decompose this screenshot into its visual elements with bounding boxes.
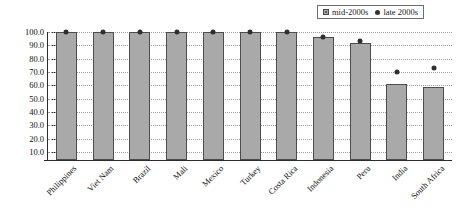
legend-label-late-2000s: late 2000s: [383, 8, 418, 17]
x-axis-label-mali: Mali: [171, 164, 188, 181]
x-axis-label-indonesia: Indonesia: [306, 164, 335, 193]
bar-turkey: [240, 32, 261, 160]
x-axis-label-viet-nam: Viet Nam: [86, 164, 115, 193]
chart-legend: mid-2000s late 2000s: [317, 5, 424, 19]
y-axis-tick-label: 60.0: [10, 81, 44, 90]
bar-swatch-icon: [323, 9, 329, 15]
legend-label-mid-2000s: mid-2000s: [332, 8, 368, 17]
bar-indonesia: [313, 37, 334, 160]
y-axis-tick-label: 40.0: [10, 108, 44, 117]
y-axis-tick-label: 20.0: [10, 135, 44, 144]
bar-philippines: [56, 32, 77, 160]
x-axis-label-mexico: Mexico: [201, 164, 225, 188]
dot-mexico: [211, 30, 216, 35]
dot-mali: [174, 30, 179, 35]
x-axis-tick-labels: PhilippinesViet NamBrazilMaliMexicoTurke…: [48, 161, 452, 223]
x-axis-label-costa-rica: Costa Rica: [267, 164, 299, 196]
y-axis-tick-label: 10.0: [10, 148, 44, 157]
dot-turkey: [248, 30, 253, 35]
dot-philippines: [64, 30, 69, 35]
x-axis-label-brazil: Brazil: [131, 164, 152, 185]
plot-area: [48, 32, 452, 160]
y-axis-line: [47, 32, 48, 161]
dot-marker-icon: [375, 10, 380, 15]
x-axis-label-turkey: Turkey: [239, 164, 262, 187]
dot-peru: [358, 39, 363, 44]
y-axis-tick-label: 100.0: [10, 28, 44, 37]
y-axis-tick-labels: 10.020.030.040.050.060.070.080.090.0100.…: [8, 32, 44, 160]
y-axis-tick-label: 80.0: [10, 55, 44, 64]
y-axis-tick-label: 50.0: [10, 95, 44, 104]
bar-mali: [166, 32, 187, 160]
y-axis-tick-label: 30.0: [10, 121, 44, 130]
x-axis-label-india: India: [391, 164, 409, 182]
x-axis-label-peru: Peru: [355, 164, 372, 181]
bar-south-africa: [423, 87, 444, 160]
bar-viet-nam: [93, 32, 114, 160]
dot-india: [394, 70, 399, 75]
chart-container: mid-2000s late 2000s 10.020.030.040.050.…: [0, 0, 458, 224]
dot-viet-nam: [101, 30, 106, 35]
legend-entry-mid-2000s: mid-2000s: [323, 8, 368, 17]
y-axis-tick-label: 90.0: [10, 41, 44, 50]
bar-mexico: [203, 32, 224, 160]
bar-costa-rica: [276, 32, 297, 160]
dot-brazil: [137, 30, 142, 35]
dot-south-africa: [431, 66, 436, 71]
dot-indonesia: [321, 34, 326, 39]
bar-india: [386, 84, 407, 160]
bar-brazil: [129, 32, 150, 160]
x-axis-label-south-africa: South Africa: [409, 164, 446, 201]
x-axis-label-philippines: Philippines: [45, 164, 78, 197]
dot-costa-rica: [284, 30, 289, 35]
bar-peru: [350, 43, 371, 160]
y-axis-tick-label: 70.0: [10, 68, 44, 77]
legend-entry-late-2000s: late 2000s: [375, 8, 418, 17]
